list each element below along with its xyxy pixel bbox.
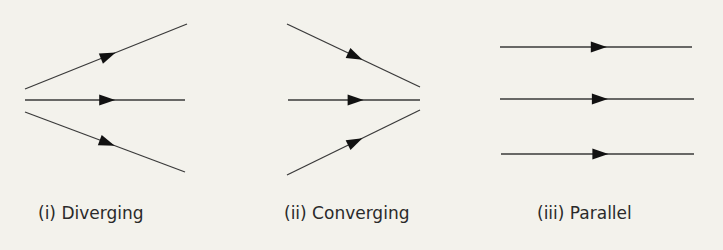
arrowhead-icon <box>346 133 365 150</box>
label-converging: (ii) Converging <box>284 203 409 223</box>
label-diverging: (i) Diverging <box>38 203 144 223</box>
arrowhead-icon <box>346 48 365 65</box>
arrowhead-icon <box>592 149 608 160</box>
arrowhead-icon <box>99 47 118 63</box>
arrowhead-icon <box>592 94 608 105</box>
label-parallel: (iii) Parallel <box>537 203 632 223</box>
arrowhead-icon <box>591 42 607 53</box>
arrowhead-icon <box>99 95 115 106</box>
arrowhead-icon <box>348 95 364 106</box>
arrowhead-icon <box>98 135 117 151</box>
